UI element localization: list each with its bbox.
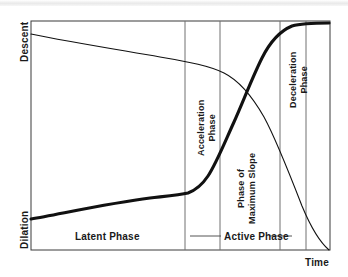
chart-plot-area: [0, 0, 348, 277]
phase-label-deceleration: Deceleration Phase: [288, 52, 310, 108]
phase-label-active: Active Phase: [224, 231, 289, 242]
phase-label-deceleration-line1: Deceleration: [288, 52, 298, 108]
phase-label-maximum-slope-line2: Maximum Slope: [247, 153, 257, 224]
phase-label-acceleration-line1: Acceleration: [196, 100, 206, 156]
phase-label-acceleration: Acceleration Phase: [196, 100, 218, 156]
y-axis-label-dilation: Dilation: [19, 211, 30, 249]
phase-label-maximum-slope-line1: Phase of: [236, 169, 246, 208]
phase-label-acceleration-line2: Phase: [207, 114, 217, 142]
x-axis-label-time: Time: [305, 257, 329, 268]
phase-label-deceleration-line2: Phase: [299, 66, 309, 94]
labor-curve-figure: Descent Dilation Acceleration Phase Phas…: [0, 0, 348, 277]
phase-label-latent: Latent Phase: [75, 231, 140, 242]
y-axis-label-descent: Descent: [19, 22, 30, 62]
phase-label-maximum-slope: Phase of Maximum Slope: [236, 153, 258, 224]
plot-border: [31, 21, 330, 250]
